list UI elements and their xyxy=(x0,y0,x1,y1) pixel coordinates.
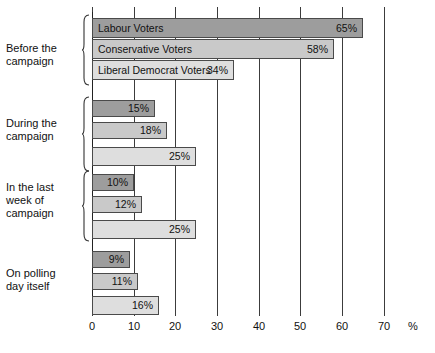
tick-30 xyxy=(217,310,218,316)
top-tick-60 xyxy=(342,7,343,12)
tick-40 xyxy=(259,310,260,316)
plot-area: Labour Voters 65% Conservative Voters 58… xyxy=(92,12,384,310)
bar-value-label: 11% xyxy=(112,276,137,287)
group-label-in-the-last-week-of-campaign: In the last week of campaign xyxy=(6,181,80,220)
bar-series-name: Liberal Democrat Voters xyxy=(98,65,211,76)
group-label-line: campaign xyxy=(6,130,80,143)
xtick-label-70: 70 xyxy=(370,320,398,332)
bar-value-label: 15% xyxy=(128,103,154,114)
gridline-70 xyxy=(384,12,385,310)
group-label-line: week of xyxy=(6,194,80,207)
top-tick-20 xyxy=(175,7,176,12)
group-label-during-the-campaign: During the campaign xyxy=(6,117,80,143)
tick-70 xyxy=(384,310,385,316)
xtick-label-20: 20 xyxy=(161,320,189,332)
xtick-label-10: 10 xyxy=(120,320,148,332)
bar-last-week-libdem: 25% xyxy=(92,220,196,239)
bar-value-label: 16% xyxy=(132,300,158,311)
xtick-label-30: 30 xyxy=(203,320,231,332)
bar-polling-day-conservative: 11% xyxy=(92,273,138,290)
top-tick-30 xyxy=(217,7,218,12)
bar-polling-day-labour: 9% xyxy=(92,251,130,268)
xtick-label-50: 50 xyxy=(286,320,314,332)
tick-50 xyxy=(300,310,301,316)
group-label-line: Before the xyxy=(6,42,80,55)
xtick-label-60: 60 xyxy=(328,320,356,332)
bar-before-campaign-libdem: Liberal Democrat Voters 34% xyxy=(92,60,234,80)
bar-value-label: 58% xyxy=(307,44,333,55)
tick-20 xyxy=(175,310,176,316)
group-brace-in-the-last-week-of-campaign xyxy=(82,170,90,242)
bar-value-label: 12% xyxy=(115,199,141,210)
group-label-before-the-campaign: Before the campaign xyxy=(6,42,80,68)
bar-value-label: 65% xyxy=(336,23,362,34)
bar-value-label: 25% xyxy=(169,151,195,162)
axis-unit-label: % xyxy=(408,320,418,332)
gridline-60 xyxy=(342,12,343,310)
group-brace-during-the-campaign xyxy=(82,96,90,172)
bar-polling-day-libdem: 16% xyxy=(92,296,159,315)
group-label-line: campaign xyxy=(6,55,80,68)
bar-during-campaign-conservative: 18% xyxy=(92,122,167,139)
top-tick-0 xyxy=(92,7,93,12)
tick-60 xyxy=(342,310,343,316)
bar-series-name: Conservative Voters xyxy=(98,44,192,55)
top-tick-50 xyxy=(300,7,301,12)
bar-value-label: 9% xyxy=(109,254,129,265)
group-label-on-polling-day-itself: On polling day itself xyxy=(6,267,80,293)
bar-before-campaign-conservative: Conservative Voters 58% xyxy=(92,39,334,59)
group-label-line: On polling xyxy=(6,267,80,280)
group-label-line: In the last xyxy=(6,181,80,194)
bar-value-label: 34% xyxy=(207,65,233,76)
group-label-line: campaign xyxy=(6,207,80,220)
top-tick-10 xyxy=(134,7,135,12)
bar-last-week-conservative: 12% xyxy=(92,196,142,213)
bar-before-campaign-labour: Labour Voters 65% xyxy=(92,18,363,38)
group-brace-before-the-campaign xyxy=(82,14,90,86)
bar-series-name: Labour Voters xyxy=(98,23,163,34)
bar-during-campaign-libdem: 25% xyxy=(92,147,196,166)
bar-during-campaign-labour: 15% xyxy=(92,100,155,117)
xtick-label-0: 0 xyxy=(78,320,106,332)
top-tick-70 xyxy=(384,7,385,12)
bar-chart: Before the campaign During the campaign … xyxy=(0,0,435,353)
xtick-label-40: 40 xyxy=(245,320,273,332)
group-label-line: During the xyxy=(6,117,80,130)
group-label-line: day itself xyxy=(6,280,80,293)
top-tick-40 xyxy=(259,7,260,12)
bar-value-label: 10% xyxy=(107,177,133,188)
bar-value-label: 18% xyxy=(140,125,166,136)
bar-value-label: 25% xyxy=(169,224,195,235)
bar-last-week-labour: 10% xyxy=(92,174,134,191)
